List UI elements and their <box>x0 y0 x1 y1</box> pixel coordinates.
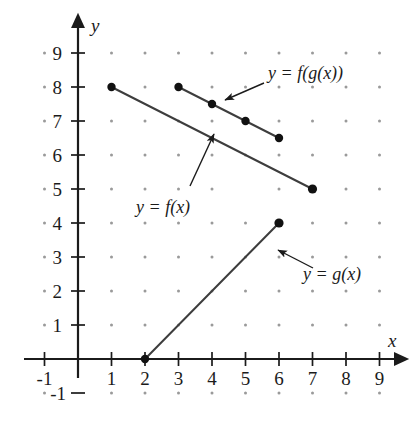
x-tick-label-neg1: -1 <box>37 368 53 389</box>
point-g-start <box>141 355 149 363</box>
x-axis-label: x <box>387 330 397 351</box>
x-tick-label-4: 4 <box>207 368 217 389</box>
point-fg-4 <box>275 134 283 142</box>
y-tick-label-7: 7 <box>53 111 63 132</box>
leader-fg <box>225 83 264 100</box>
point-f-start <box>107 83 115 91</box>
y-axis-tick-labels: 9 8 7 6 5 4 3 2 1 -1 <box>50 43 66 404</box>
y-axis-label: y <box>89 15 100 36</box>
y-tick-label-5: 5 <box>53 179 63 200</box>
y-tick-label-4: 4 <box>53 213 63 234</box>
y-tick-label-8: 8 <box>53 77 63 98</box>
y-tick-label-neg1: -1 <box>50 383 66 404</box>
x-axis-tick-labels: -1 1 2 3 4 5 6 7 8 9 <box>37 368 385 389</box>
y-tick-label-6: 6 <box>53 145 63 166</box>
x-tick-label-6: 6 <box>274 368 284 389</box>
point-fg-3 <box>241 117 249 125</box>
y-tick-label-1: 1 <box>53 315 63 336</box>
y-tick-label-9: 9 <box>53 43 63 64</box>
x-tick-label-8: 8 <box>341 368 351 389</box>
graph-canvas: 9 8 7 6 5 4 3 2 1 -1 -1 1 2 3 4 5 6 7 8 … <box>0 0 416 435</box>
function-composition-figure: 9 8 7 6 5 4 3 2 1 -1 -1 1 2 3 4 5 6 7 8 … <box>0 0 416 435</box>
y-tick-label-2: 2 <box>53 281 63 302</box>
curve-fg <box>174 83 283 142</box>
x-tick-label-3: 3 <box>174 368 184 389</box>
x-tick-label-5: 5 <box>241 368 251 389</box>
curve-g <box>141 218 284 363</box>
point-fg-1 <box>174 83 182 91</box>
x-tick-label-7: 7 <box>308 368 318 389</box>
label-g: y = g(x) <box>301 264 361 285</box>
y-tick-label-3: 3 <box>53 247 63 268</box>
leader-f <box>190 134 214 186</box>
x-tick-label-1: 1 <box>107 368 117 389</box>
x-tick-label-2: 2 <box>140 368 150 389</box>
label-fg: y = f(g(x)) <box>266 63 343 84</box>
point-fg-2 <box>208 100 216 108</box>
label-f: y = f(x) <box>134 197 190 218</box>
point-g-end <box>274 218 283 227</box>
point-f-end <box>308 184 317 193</box>
x-tick-label-9: 9 <box>375 368 385 389</box>
